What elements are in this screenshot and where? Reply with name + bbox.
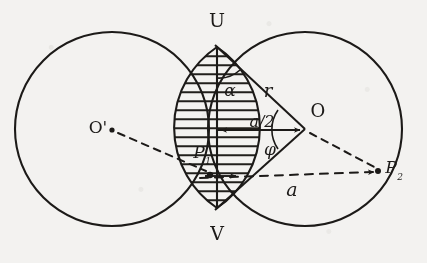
label-alpha: α [224,80,236,100]
label-a-half: a/2 [249,112,274,131]
label-u: U [209,9,225,31]
label-o-prime: O' [89,117,108,137]
diagram-canvas: U V O O' α r a/2 φ a P 1 P 2 [0,0,427,263]
label-v: V [209,222,224,244]
dashed-o-p2 [310,133,378,169]
label-p2-subscript: 2 [396,172,403,182]
label-p1-subscript: 1 [205,156,211,166]
label-o: O [311,100,326,121]
label-p2-base: P [384,157,397,177]
label-a: a [286,178,297,200]
point-marker-o-prime [109,127,114,132]
label-p1-base: P [192,142,205,162]
geometry-figure: U V O O' α r a/2 φ a P 1 P 2 [0,0,427,263]
label-p2: P 2 [384,157,403,182]
label-r: r [264,80,274,101]
label-phi: φ [264,139,276,159]
point-marker-p2 [375,168,381,174]
point-marker-p1 [207,172,213,178]
